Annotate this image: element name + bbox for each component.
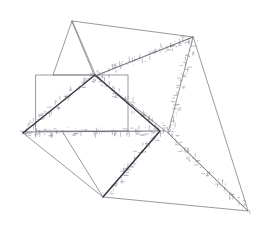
scatter-dot-marker [113,189,114,190]
scatter-dot-marker [138,60,139,61]
scatter-dot-marker [159,49,160,50]
scatter-dot-marker [218,179,219,180]
scatter-dot-marker [104,78,105,79]
scatter-dot-marker [136,161,137,162]
scatter-dot-marker [200,167,201,168]
scatter-dot-marker [126,98,127,99]
scatter-dot-marker [38,133,39,134]
scatter-dot-marker [122,61,123,62]
scatter-dot-marker [161,133,162,134]
scatter-dot-marker [151,135,152,136]
scatter-dot-marker [176,46,177,47]
scatter-dot-marker [190,150,191,151]
scatter-dot-marker [67,95,68,96]
scatter-dot-marker [129,98,130,99]
scatter-dot-marker [148,129,149,130]
scatter-dot-marker [145,151,146,152]
scatter-dot-marker [173,128,174,129]
scatter-dot-marker [186,73,187,74]
scatter-dot-marker [187,148,188,149]
scatter-dot-marker [120,67,121,68]
scatter-dot-marker [220,186,221,187]
line-figure-svg [0,0,263,228]
scatter-dot-marker [115,64,116,65]
scatter-dot-marker [113,129,114,130]
scatter-dot-marker [225,184,226,185]
polygon-shapes-layer [23,21,248,211]
scatter-dot-marker [154,120,155,121]
scatter-dot-marker [139,57,140,58]
scatter-dot-marker [173,132,174,133]
scatter-dot-marker [127,133,128,134]
scatter-dot-marker [242,209,243,210]
scatter-dot-marker [21,134,22,135]
markers-bold-descending [92,78,168,134]
scatter-dot-marker [98,129,99,130]
scatter-dot-marker [75,133,76,134]
scatter-dot-marker [199,160,200,161]
scatter-dot-marker [108,132,109,133]
scatter-dot-marker [29,131,30,132]
scatter-dot-marker [82,129,83,130]
scatter-dot-marker [176,113,177,114]
figure-canvas [0,0,263,228]
scatter-dot-marker [128,64,129,65]
scatter-dot-marker [213,171,214,172]
lower-left-triangle [23,131,160,197]
scatter-dot-marker [141,150,142,151]
scatter-dot-marker [31,122,32,123]
scatter-dot-marker [111,191,112,192]
scatter-dot-marker [32,122,33,123]
scatter-dot-marker [230,191,231,192]
scatter-dot-marker [58,133,59,134]
scatter-dot-marker [149,53,150,54]
scatter-dot-marker [161,54,162,55]
scatter-dot-marker [102,192,103,193]
scatter-dot-marker [86,80,87,81]
scatter-dot-marker [186,55,187,56]
scatter-dot-marker [101,76,102,77]
large-open-quadrilateral [62,76,248,211]
scatter-dot-marker [189,48,190,49]
scatter-dot-marker [49,129,50,130]
scatter-dot-marker [153,136,154,137]
scatter-dot-marker [86,79,87,80]
scatter-dot-marker [75,128,76,129]
scatter-dot-marker [134,56,135,57]
scatter-dot-marker [171,124,172,125]
scatter-dot-marker [25,134,26,135]
scatter-dot-marker [129,169,130,170]
scatter-dot-marker [244,204,245,205]
scatter-dot-marker [170,130,171,131]
scatter-dot-marker [103,194,104,195]
scatter-dot-marker [176,116,177,117]
scatter-dot-marker [156,140,157,141]
tall-narrow-triangle-right [168,37,248,211]
scatter-dot-marker [175,109,176,110]
scatter-dot-marker [174,116,175,117]
scatter-dot-marker [112,132,113,133]
scatter-dot-marker [211,169,212,170]
scatter-dot-marker [145,61,146,62]
scatter-dot-marker [181,149,182,150]
scatter-markers-layer [20,36,250,214]
scatter-dot-marker [170,129,171,130]
scatter-dot-marker [225,193,226,194]
scatter-dot-marker [129,101,130,102]
scatter-dot-marker [110,193,111,194]
scatter-dot-marker [160,52,161,53]
scatter-dot-marker [102,128,103,129]
scatter-dot-marker [129,61,130,62]
scatter-dot-marker [163,50,164,51]
scatter-dot-marker [131,162,132,163]
scatter-dot-marker [185,42,186,43]
scatter-dot-marker [112,133,113,134]
scatter-dot-marker [134,111,135,112]
scatter-dot-marker [133,65,134,66]
scatter-dot-marker [180,43,181,44]
scatter-dot-marker [213,173,214,174]
scatter-dot-marker [102,78,103,79]
scatter-dot-marker [165,51,166,52]
scatter-dot-marker [102,133,103,134]
scatter-dot-marker [180,79,181,80]
